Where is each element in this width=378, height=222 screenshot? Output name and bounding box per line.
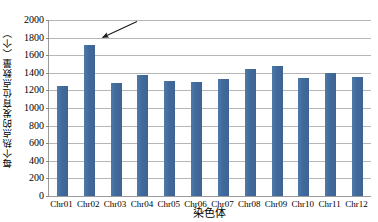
y-axis-tick-label: 2000 <box>24 15 44 25</box>
y-axis-tick-label: 1600 <box>24 50 44 60</box>
bar-slot <box>183 20 210 196</box>
bar-slot <box>210 20 237 196</box>
bar[interactable] <box>111 83 122 196</box>
bar-slot <box>237 20 264 196</box>
bar-series <box>49 20 371 196</box>
y-axis-tick-label: 1400 <box>24 68 44 78</box>
bar-slot <box>129 20 156 196</box>
bar[interactable] <box>191 82 202 196</box>
bar[interactable] <box>352 77 363 196</box>
bar[interactable] <box>164 81 175 196</box>
bar-slot <box>156 20 183 196</box>
bar-slot <box>103 20 130 196</box>
bar-slot <box>49 20 76 196</box>
bar[interactable] <box>84 45 95 196</box>
bar-slot <box>290 20 317 196</box>
bar[interactable] <box>298 78 309 196</box>
y-axis-tick-label: 200 <box>29 173 44 183</box>
bar-slot <box>317 20 344 196</box>
y-axis-tick-label: 1000 <box>24 103 44 113</box>
bar[interactable] <box>137 75 148 196</box>
bar[interactable] <box>57 86 68 196</box>
y-axis-tick-label: 0 <box>39 191 44 201</box>
bar[interactable] <box>245 69 256 196</box>
y-axis-tickmark <box>46 196 49 197</box>
y-axis-tick-label: 1800 <box>24 33 44 43</box>
bar[interactable] <box>218 79 229 196</box>
bar-slot <box>76 20 103 196</box>
y-axis-tick-labels: 0200400600800100012001400160018002000 <box>16 0 46 200</box>
x-axis-title: 染色体 <box>48 207 370 221</box>
bar-slot <box>344 20 371 196</box>
y-axis-title-text: 每个热点的发育位点数量（个） <box>3 28 13 168</box>
bar-slot <box>264 20 291 196</box>
y-axis-tick-label: 400 <box>29 156 44 166</box>
bar[interactable] <box>272 66 283 196</box>
bar[interactable] <box>325 73 336 196</box>
y-axis-tick-label: 1200 <box>24 85 44 95</box>
y-axis-tick-label: 800 <box>29 121 44 131</box>
y-axis-title: 每个热点的发育位点数量（个） <box>0 0 16 196</box>
plot-area <box>48 20 371 197</box>
y-axis-tick-label: 600 <box>29 138 44 148</box>
bar-chart: 每个热点的发育位点数量（个） 0200400600800100012001400… <box>0 0 378 222</box>
